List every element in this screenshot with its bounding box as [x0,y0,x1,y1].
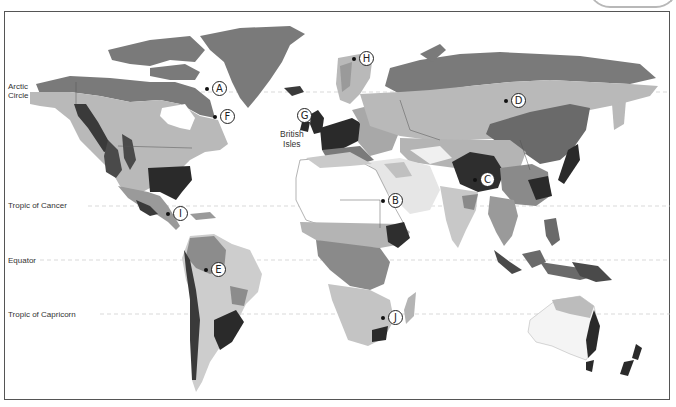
marker-i[interactable]: I [166,206,188,221]
location-dot-icon [381,316,385,320]
location-dot-icon [205,87,209,91]
marker-a[interactable]: A [205,81,227,96]
iceland [284,86,304,96]
marker-letter: J [388,310,403,325]
marker-c[interactable]: C [473,172,495,187]
marker-e[interactable]: E [204,262,226,277]
location-dot-icon [504,99,508,103]
marker-h[interactable]: H [352,51,374,66]
new-zealand [632,344,642,360]
marker-letter: H [359,51,374,66]
marker-letter: G [297,108,312,123]
indonesia [494,250,522,274]
marker-letter: F [220,109,235,124]
kamchatka [612,100,626,130]
location-dot-icon [213,115,217,119]
tropic-of-cancer-label: Tropic of Cancer [8,201,67,210]
marker-j[interactable]: J [381,310,403,325]
marker-d[interactable]: D [504,93,526,108]
marker-b[interactable]: B [381,193,403,208]
equator-label: Equator [8,256,36,265]
marker-letter: A [212,81,227,96]
tropic-of-capricorn-label: Tropic of Capricorn [8,310,76,319]
location-dot-icon [204,268,208,272]
marker-letter: C [480,172,495,187]
location-dot-icon [352,57,356,61]
marker-letter: I [173,206,188,221]
marker-letter: D [511,93,526,108]
location-dot-icon [381,199,385,203]
world-climate-map [0,0,676,407]
arctic-circle-label: Arctic Circle [8,82,28,100]
marker-g[interactable]: G [297,108,312,123]
marker-letter: E [211,262,226,277]
british-isles-label: British Isles [280,129,304,149]
marker-letter: B [388,193,403,208]
madagascar [404,292,416,324]
marker-f[interactable]: F [213,109,235,124]
arctic-islands [108,36,205,66]
location-dot-icon [166,212,170,216]
southeast-asia [488,196,518,246]
location-dot-icon [473,178,477,182]
